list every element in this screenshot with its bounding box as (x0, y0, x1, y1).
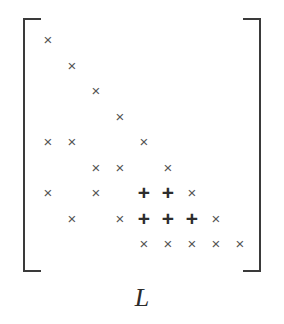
matrix-nonzero-mark: × (180, 181, 204, 205)
matrix-nonzero-mark: × (108, 105, 132, 129)
matrix-nonzero-mark: × (60, 130, 84, 154)
matrix-nonzero-mark: × (60, 54, 84, 78)
matrix-figure: ××××××××××××++×××+++×××××× L (0, 0, 284, 324)
matrix-nonzero-mark: × (36, 28, 60, 52)
matrix-fillin-mark: + (156, 207, 180, 231)
matrix-nonzero-mark: × (108, 207, 132, 231)
matrix-fillin-mark: + (132, 181, 156, 205)
matrix-nonzero-mark: × (36, 181, 60, 205)
matrix-nonzero-mark: × (156, 232, 180, 256)
matrix-nonzero-mark: × (156, 156, 180, 180)
matrix-grid: ××××××××××××++×××+++×××××× (36, 28, 246, 264)
matrix-nonzero-mark: × (108, 156, 132, 180)
matrix-nonzero-mark: × (60, 207, 84, 231)
matrix-nonzero-mark: × (84, 79, 108, 103)
matrix-nonzero-mark: × (84, 181, 108, 205)
matrix-nonzero-mark: × (132, 130, 156, 154)
matrix-fillin-mark: + (180, 207, 204, 231)
matrix-label: L (0, 283, 284, 313)
matrix-nonzero-mark: × (204, 232, 228, 256)
matrix-fillin-mark: + (156, 181, 180, 205)
matrix-nonzero-mark: × (180, 232, 204, 256)
matrix-nonzero-mark: × (36, 130, 60, 154)
matrix-fillin-mark: + (132, 207, 156, 231)
matrix-right-bracket (243, 18, 261, 272)
matrix-nonzero-mark: × (204, 207, 228, 231)
matrix-nonzero-mark: × (132, 232, 156, 256)
matrix-nonzero-mark: × (84, 156, 108, 180)
